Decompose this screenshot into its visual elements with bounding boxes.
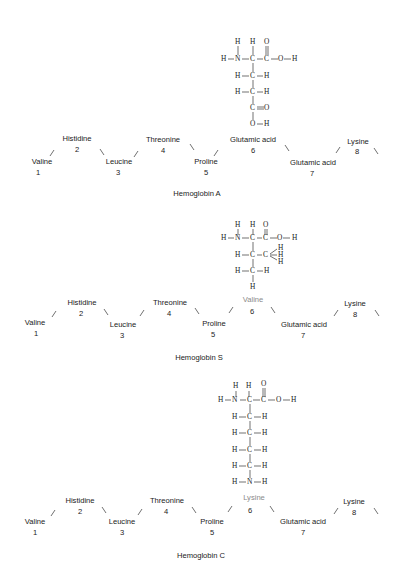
residue-number: 2: [79, 309, 83, 318]
atom-n: N: [235, 234, 240, 242]
atom-h: H: [292, 55, 297, 63]
residue-number: 6: [251, 146, 255, 155]
residue-name: Glutamic acid: [281, 320, 327, 329]
panel-caption: Hemoglobin S: [175, 353, 223, 362]
atom-h: H: [221, 234, 226, 242]
residue-name: Leucine: [110, 320, 137, 329]
atom-c: C: [247, 413, 252, 421]
atom-c: C: [247, 396, 252, 404]
residue-name: Leucine: [106, 157, 133, 166]
residue-name: Histidine: [67, 298, 96, 307]
atom-h: H: [246, 382, 251, 390]
residue-name: Lysine: [344, 299, 366, 308]
atom-c: C: [261, 396, 266, 404]
atom-c: C: [247, 446, 252, 454]
residue-number: 7: [301, 528, 305, 537]
atom-h: H: [262, 446, 267, 454]
atom-n: N: [235, 55, 240, 63]
atom-c: C: [250, 251, 255, 259]
atom-c: C: [263, 234, 268, 242]
residue-number: 1: [36, 168, 40, 177]
atom-h: H: [262, 462, 267, 470]
residue-name: Threonine: [153, 298, 187, 307]
atom-h: H: [232, 413, 237, 421]
atom-h: H: [235, 38, 240, 46]
atom-h: H: [235, 221, 240, 229]
residue-number: 3: [120, 528, 124, 537]
residue-name: Histidine: [62, 134, 91, 143]
residue-number: 6: [250, 307, 254, 316]
atom-h: H: [264, 72, 269, 80]
atom-h: H: [262, 413, 267, 421]
residue-name: Proline: [202, 319, 226, 328]
residue-number: 5: [210, 528, 214, 537]
atom-h: H: [250, 38, 255, 46]
residue-name: Glutamic acid: [290, 158, 336, 167]
atom-c: C: [250, 88, 255, 96]
atom-o: O: [278, 55, 283, 63]
atom-h: H: [232, 429, 237, 437]
bond-lines: [0, 0, 400, 577]
residue-number: 7: [301, 331, 305, 340]
residue-number: 3: [120, 331, 124, 340]
atom-h: H: [264, 88, 269, 96]
atom-c: C: [250, 104, 255, 112]
atom-h: H: [250, 221, 255, 229]
atom-o: O: [250, 120, 255, 128]
atom-o: O: [263, 221, 268, 229]
atom-c: C: [247, 462, 252, 470]
residue-name: Valine: [32, 157, 53, 166]
atom-h: H: [235, 251, 240, 259]
atom-h: H: [235, 72, 240, 80]
residue-number: 4: [161, 146, 165, 155]
residue-number: 5: [204, 168, 208, 177]
atom-h: H: [233, 382, 238, 390]
residue-name: Histidine: [65, 496, 94, 505]
residue-name-highlight: Valine: [243, 295, 264, 304]
atom-c: C: [250, 267, 255, 275]
atom-h: H: [278, 258, 283, 266]
residue-name: Lysine: [347, 137, 369, 146]
residue-name: Leucine: [109, 517, 136, 526]
residue-number: 7: [310, 169, 314, 178]
residue-name: Lysine: [343, 497, 365, 506]
residue-number: 2: [78, 507, 82, 516]
residue-name: Proline: [200, 517, 224, 526]
residue-name-highlight: Lysine: [243, 493, 265, 502]
residue-number: 5: [211, 330, 215, 339]
residue-number: 1: [33, 528, 37, 537]
atom-h: H: [292, 234, 297, 242]
residue-name: Valine: [25, 517, 46, 526]
atom-c: C: [250, 234, 255, 242]
residue-name-highlight: Glutamic acid: [230, 135, 276, 144]
residue-number: 4: [164, 507, 168, 516]
atom-c: C: [264, 55, 269, 63]
residue-number: 2: [75, 145, 79, 154]
atom-h: H: [235, 88, 240, 96]
atom-o: O: [276, 396, 281, 404]
atom-h: H: [232, 462, 237, 470]
atom-h: H: [264, 120, 269, 128]
residue-number: 1: [34, 329, 38, 338]
atom-h: H: [262, 478, 267, 486]
atom-h: H: [262, 429, 267, 437]
residue-number: 3: [116, 168, 120, 177]
residue-number: 4: [167, 309, 171, 318]
residue-name: Glutamic acid: [280, 517, 326, 526]
atom-o: O: [261, 380, 266, 388]
residue-number: 8: [353, 310, 357, 319]
atom-c: C: [250, 55, 255, 63]
residue-name: Threonine: [146, 135, 180, 144]
atom-h: H: [232, 446, 237, 454]
atom-n: N: [247, 478, 252, 486]
residue-name: Threonine: [150, 496, 184, 505]
residue-number: 6: [248, 506, 252, 515]
residue-number: 8: [355, 147, 359, 156]
panel-caption: Hemoglobin C: [177, 551, 225, 560]
atom-o: O: [264, 104, 269, 112]
atom-o: O: [277, 234, 282, 242]
atom-h: H: [264, 267, 269, 275]
atom-c: C: [247, 429, 252, 437]
atom-h: H: [221, 55, 226, 63]
atom-n: N: [232, 396, 237, 404]
